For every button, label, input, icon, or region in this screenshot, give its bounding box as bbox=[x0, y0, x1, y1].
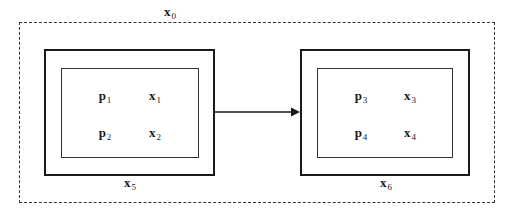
flow-arrow-icon bbox=[0, 0, 513, 212]
